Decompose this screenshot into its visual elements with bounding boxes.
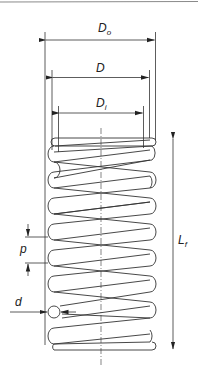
wire-diameter-label: d [15, 295, 22, 309]
free-length-label: Lf [178, 233, 188, 249]
spring-coils [48, 138, 156, 350]
spring-diagram: Do D Di [0, 0, 198, 374]
mean-diameter-label: D [96, 61, 105, 75]
top-rule [0, 2, 198, 3]
inner-diameter-label: Di [96, 96, 107, 112]
pitch-label: p [19, 242, 27, 256]
outer-diameter-label: Do [98, 21, 112, 37]
free-length-dimension: Lf [173, 139, 188, 349]
wire-section [48, 306, 60, 318]
pitch-dimension: p [19, 224, 48, 276]
wire-diameter-dimension: d [10, 295, 76, 312]
